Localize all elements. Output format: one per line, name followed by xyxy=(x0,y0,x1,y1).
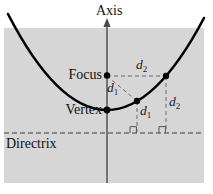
directrix-label: Directrix xyxy=(6,136,57,151)
focus-label: Focus xyxy=(56,67,102,82)
d2-label-horizontal: d2 xyxy=(136,57,147,73)
parabola-diagram: Axis Focus Vertex Directrix d2 d1 d1 d2 xyxy=(0,0,213,194)
parabola-point-right xyxy=(163,73,169,79)
d2-sub: 2 xyxy=(143,64,148,74)
d1-label-diagonal: d1 xyxy=(107,80,118,96)
d1-base: d xyxy=(107,80,114,95)
axis-arrow-up-icon xyxy=(103,18,110,27)
axis-label: Axis xyxy=(96,3,122,18)
vertex-label: Vertex xyxy=(52,102,102,117)
focus-point xyxy=(104,72,110,78)
d2-label-vertical: d2 xyxy=(169,94,180,110)
d1-label-vertical: d1 xyxy=(140,103,151,119)
d1-sub: 1 xyxy=(114,87,119,97)
d1-base: d xyxy=(140,103,147,118)
d2-sub: 2 xyxy=(176,101,181,111)
d2-base: d xyxy=(136,57,143,72)
d1-sub: 1 xyxy=(147,110,152,120)
diagram-canvas xyxy=(0,0,213,194)
vertex-point xyxy=(104,107,111,114)
d2-base: d xyxy=(169,94,176,109)
